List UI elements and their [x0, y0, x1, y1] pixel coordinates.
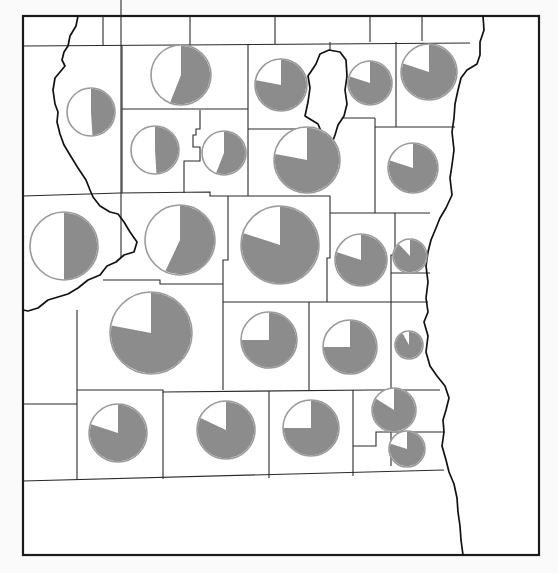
pie-symbol	[151, 45, 211, 105]
pie-symbol	[389, 431, 425, 467]
pie-wedge	[394, 240, 426, 272]
pie-symbol	[89, 404, 147, 462]
pie-symbol	[131, 126, 179, 174]
pie-symbol	[401, 44, 457, 100]
pie-symbol	[372, 388, 416, 432]
pie-symbol	[241, 312, 297, 368]
pie-symbol	[30, 212, 98, 280]
pie-symbol	[197, 401, 255, 459]
pie-map	[0, 0, 558, 573]
pie-symbol	[255, 59, 307, 111]
pie-wedge	[396, 332, 422, 358]
pie-symbol	[395, 331, 423, 359]
pie-symbol	[110, 292, 192, 374]
pie-symbol	[283, 400, 339, 456]
pie-symbol	[348, 61, 392, 105]
pie-symbol	[241, 206, 319, 284]
pie-symbol	[388, 143, 438, 193]
pie-symbol	[323, 320, 377, 374]
pie-symbol	[274, 127, 340, 193]
pie-symbol	[335, 234, 387, 286]
pie-symbol	[202, 131, 246, 175]
pie-symbol	[145, 205, 215, 275]
pie-symbol	[393, 239, 427, 273]
pie-symbol	[67, 88, 115, 136]
